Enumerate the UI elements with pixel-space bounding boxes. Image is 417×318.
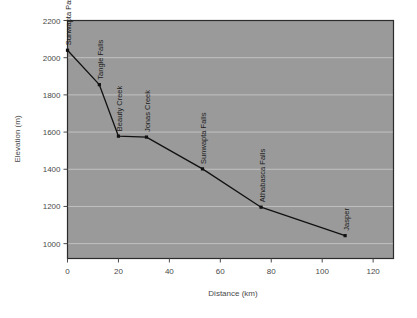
x-tick-label: 60 <box>216 267 225 276</box>
data-point-label: Sunwapta Falls <box>199 112 208 164</box>
y-tick-label: 2200 <box>43 17 61 26</box>
y-tick-label: 1000 <box>43 240 61 249</box>
data-point-marker <box>117 135 120 138</box>
data-point-label: Jasper <box>342 208 351 231</box>
data-point-marker <box>98 83 101 86</box>
x-tick-label: 20 <box>114 267 123 276</box>
y-tick-label: 1400 <box>43 165 61 174</box>
data-point-label: Beauty Creek <box>115 85 124 131</box>
x-tick-label: 0 <box>65 267 70 276</box>
x-tick-label: 80 <box>267 267 276 276</box>
x-tick-label: 120 <box>366 267 380 276</box>
data-point-label: Athabasca Falls <box>258 149 267 203</box>
data-point-marker <box>66 49 69 52</box>
x-axis-title: Distance (km) <box>208 289 258 298</box>
elevation-profile-chart: 020406080100120 100012001400160018002000… <box>0 0 417 318</box>
data-point-marker <box>259 206 262 209</box>
data-point-label: Jonas Creek <box>143 90 152 132</box>
chart-canvas: 020406080100120 100012001400160018002000… <box>0 0 417 318</box>
data-point-label: Sunwapta Pass <box>64 0 73 45</box>
y-tick-label: 1200 <box>43 202 61 211</box>
data-point-label: Tangle Falls <box>96 39 105 79</box>
y-axis-title: Elevation (m) <box>13 115 22 162</box>
y-tick-label: 1800 <box>43 91 61 100</box>
x-tick-label: 100 <box>316 267 330 276</box>
y-tick-label: 2000 <box>43 54 61 63</box>
data-point-marker <box>344 234 347 237</box>
y-tick-label: 1600 <box>43 128 61 137</box>
data-point-marker <box>201 167 204 170</box>
data-point-marker <box>145 135 148 138</box>
x-tick-label: 40 <box>165 267 174 276</box>
